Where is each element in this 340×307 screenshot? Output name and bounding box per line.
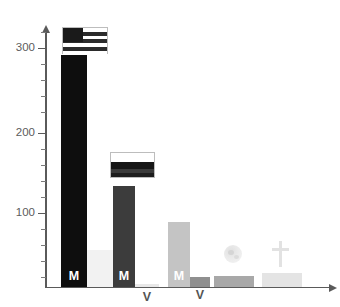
y-tick-minor — [41, 165, 46, 166]
y-tick-minor — [41, 261, 46, 262]
x-axis-line — [45, 287, 330, 289]
bar-chart: 300 200 100 M M V — [0, 0, 340, 307]
y-tick-minor — [41, 229, 46, 230]
bar-label-group2-v: V — [135, 290, 159, 304]
bar-label-group3-v: V — [190, 288, 210, 302]
y-tick-minor — [41, 245, 46, 246]
y-tick-minor — [41, 197, 46, 198]
y-tick-300 — [38, 48, 46, 49]
y-tick-minor — [41, 181, 46, 182]
y-tick-200 — [38, 133, 46, 134]
bar-label-group1-m: M — [61, 269, 87, 283]
y-tick-label-300: 300 — [5, 42, 35, 54]
y-tick-minor — [41, 96, 46, 97]
bar-group4-m — [214, 276, 254, 287]
bar-label-group2-m: M — [113, 269, 135, 283]
bar-group2-v: V — [135, 284, 159, 287]
y-tick-minor — [41, 32, 46, 33]
y-tick-minor — [41, 149, 46, 150]
bar-group5-m — [262, 273, 302, 287]
bar-group1-m: M — [61, 55, 87, 287]
bicolor-flag-icon — [110, 152, 155, 178]
x-axis-arrow-icon — [329, 284, 337, 292]
bar-group3-v: V — [190, 277, 210, 287]
y-tick-label-100: 100 — [5, 207, 35, 219]
globe-icon — [224, 245, 242, 263]
bar-group1-v — [87, 250, 113, 287]
y-tick-100 — [38, 213, 46, 214]
bar-group3-m: M — [168, 222, 190, 287]
y-tick-label-200: 200 — [5, 127, 35, 139]
y-tick-minor — [41, 112, 46, 113]
y-axis-line — [45, 32, 47, 288]
us-flag-icon — [62, 27, 108, 54]
bar-label-group3-m: M — [168, 269, 190, 283]
y-tick-minor — [41, 64, 46, 65]
y-tick-minor — [41, 277, 46, 278]
bar-group2-m: M — [113, 186, 135, 287]
cross-icon — [268, 241, 292, 267]
y-tick-minor — [41, 80, 46, 81]
